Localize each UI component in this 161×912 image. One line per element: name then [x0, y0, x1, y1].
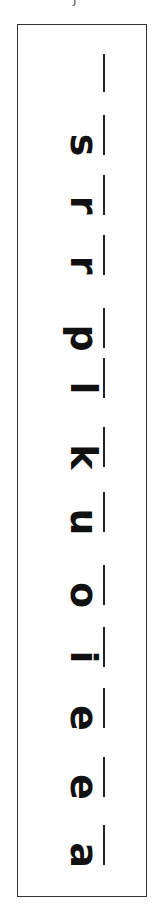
blank-writing-line	[103, 54, 105, 92]
letter-l: l	[62, 366, 106, 410]
letter-a: a	[62, 833, 106, 877]
letter-e: e	[62, 765, 106, 809]
letter-e: e	[62, 696, 106, 740]
letter-o: o	[62, 573, 106, 617]
letter-r: r	[62, 183, 106, 227]
letter-k: k	[62, 435, 106, 479]
letter-r: r	[62, 243, 106, 287]
letter-u: u	[62, 500, 106, 544]
top-cropped-mark: J	[73, 0, 83, 4]
letter-p: p	[62, 316, 106, 360]
letter-s: s	[62, 123, 106, 167]
letter-i: i	[62, 635, 106, 679]
